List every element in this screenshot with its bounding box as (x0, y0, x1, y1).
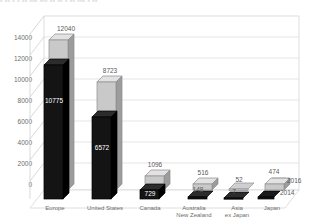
category-label-united-states: United States (80, 205, 130, 212)
series-label-2014: 2014 (280, 189, 294, 196)
category-label-canada: Canada (130, 205, 170, 212)
category-label-line1: Australia (182, 205, 205, 211)
data-label-2014-united-states: 6572 (90, 144, 114, 151)
series-label-2016: 2016 (287, 177, 301, 184)
category-label-europe: Europe (32, 205, 78, 212)
y-tick-label: 14000 (0, 34, 32, 41)
category-label-line1: Asia (231, 205, 243, 211)
y-tick-label: 8000 (0, 97, 32, 104)
y-tick-label: 12000 (0, 55, 32, 62)
category-label-australia-new-zealand: Australia New Zealand (168, 205, 220, 219)
data-label-2016-australia-new-zealand: 516 (191, 169, 215, 176)
data-label-2016-united-states: 8723 (95, 67, 125, 74)
y-tick-label: 2000 (0, 160, 32, 167)
y-tick-label: 4000 (0, 139, 32, 146)
category-label-line2: New Zealand (176, 212, 211, 218)
y-tick-label: 6000 (0, 118, 32, 125)
data-label-2014-canada: 729 (138, 190, 162, 197)
data-label-2016-canada: 1096 (142, 161, 168, 168)
category-label-japan: Japan (252, 205, 292, 212)
category-label-line2: ex Japan (225, 212, 249, 218)
clipped-header-text: ▫ ▫▫ ▫ ▫ ▫▫ ▫▫▫ ▫▫▫ ▫▫ ▫▫ ▫ ▫▫ ▫▫▫ ▫ ▫▫ (0, 0, 311, 5)
data-label-2016-japan: 474 (262, 168, 286, 175)
data-label-2014-australia-new-zealand: 148 (186, 186, 210, 193)
y-tick-label: 10000 (0, 76, 32, 83)
data-label-2016-asia-ex-japan: 52 (228, 176, 250, 183)
data-label-2014-asia-ex-japan: 7 (223, 188, 245, 195)
data-label-2016-europe: 12040 (46, 25, 86, 32)
y-tick-label: 0 (0, 181, 32, 188)
data-label-2014-europe: 10775 (42, 97, 66, 104)
chart-3d-column: 14000 12000 10000 8000 6000 4000 2000 0 (0, 8, 311, 221)
